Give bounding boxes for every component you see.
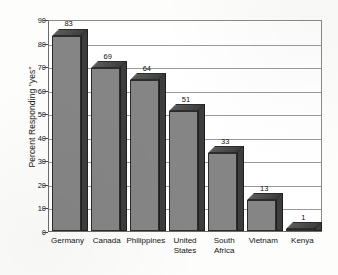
bar	[52, 29, 88, 232]
bar	[286, 222, 322, 231]
bar-value-label: 83	[51, 19, 87, 28]
bar-front-face	[169, 111, 198, 231]
bar-value-label: 13	[246, 184, 282, 193]
bar-front-face	[91, 68, 120, 231]
bar-front-face	[52, 36, 81, 232]
bar-side-face	[120, 61, 127, 231]
bar-front-face	[130, 80, 159, 231]
bar-side-face	[237, 146, 244, 231]
bar-value-label: 64	[129, 64, 165, 73]
bar-side-face	[81, 29, 88, 232]
x-label-line: Africa	[199, 246, 250, 256]
bar-front-face	[286, 229, 315, 231]
bar-front-face	[208, 153, 237, 231]
bar-side-face	[198, 104, 205, 231]
bar-front-face	[247, 200, 276, 231]
bar-value-label: 33	[207, 137, 243, 146]
bar	[130, 73, 166, 231]
bar	[91, 61, 127, 231]
x-label-line: Kenya	[277, 236, 328, 246]
bar-side-face	[276, 193, 283, 231]
bar-value-label: 69	[90, 52, 126, 61]
bar	[247, 193, 283, 231]
bar-side-face	[159, 73, 166, 231]
gridline	[49, 45, 321, 46]
bar	[169, 104, 205, 231]
x-axis-label: Kenya	[277, 236, 328, 246]
bar	[208, 146, 244, 231]
bar-value-label: 51	[168, 95, 204, 104]
y-tick-mark	[43, 232, 48, 233]
bar-top-face	[52, 29, 88, 36]
bar-value-label: 1	[285, 213, 321, 222]
bar-chart: Percent Responding "yes" 010203040506070…	[0, 0, 338, 275]
